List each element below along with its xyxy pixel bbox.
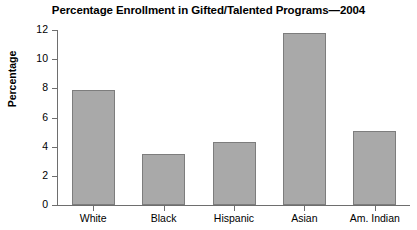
x-axis-tick [234,206,235,211]
y-axis-tick [52,118,57,119]
chart-title: Percentage Enrollment in Gifted/Talented… [0,4,417,16]
y-axis-tick [52,147,57,148]
x-axis-label: Am. Indian [340,212,410,224]
plot-area [58,30,410,205]
bar-chart-figure: Percentage Enrollment in Gifted/Talented… [0,0,417,230]
y-axis-tick-label: 4 [10,141,48,152]
y-axis-tick [52,30,57,31]
y-axis-tick-label: 12 [10,24,48,35]
bar [142,154,185,205]
y-axis-tick [52,205,57,206]
y-axis-tick-label: 6 [10,112,48,123]
bar [353,131,396,205]
x-axis-tick [93,206,94,211]
y-axis-tick-label: 10 [10,53,48,64]
bar [283,33,326,205]
bar [213,142,256,205]
x-axis-label: Black [128,212,198,224]
y-axis-tick [52,176,57,177]
y-axis-tick-label: 2 [10,170,48,181]
y-axis-tick-label: 8 [10,82,48,93]
bar [72,90,115,205]
x-axis-label: Asian [269,212,339,224]
x-axis-tick [164,206,165,211]
x-axis-tick [304,206,305,211]
x-axis-tick [375,206,376,211]
y-axis-tick [52,59,57,60]
x-axis-label: Hispanic [199,212,269,224]
y-axis-tick [52,88,57,89]
y-axis-tick-label: 0 [10,199,48,210]
x-axis-label: White [58,212,128,224]
